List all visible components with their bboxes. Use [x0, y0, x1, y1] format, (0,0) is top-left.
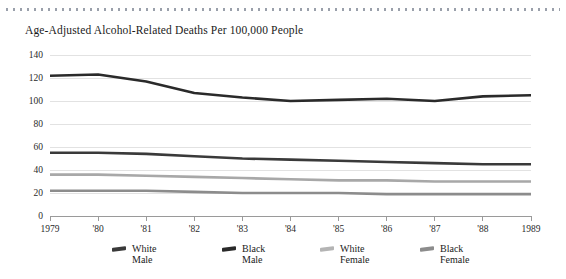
legend-label-line2: Male: [242, 254, 265, 265]
legend-label-line1: White: [132, 243, 156, 254]
legend-swatch-icon: [420, 246, 434, 252]
line-chart-svg: 020406080100120140 1979'80'81'82'83'84'8…: [0, 0, 566, 279]
legend-label-line1: Black: [440, 243, 469, 254]
y-axis-tick-label: 140: [29, 50, 44, 60]
legend-item: WhiteMale: [112, 243, 156, 265]
x-axis-tick-label: '82: [189, 224, 200, 234]
legend-swatch-icon: [222, 246, 236, 252]
legend-swatch-icon: [112, 246, 126, 252]
legend-label-line2: Female: [340, 254, 369, 265]
x-axis-tick-label: '81: [141, 224, 152, 234]
y-axis-tick-label: 100: [29, 96, 44, 106]
y-axis-tick-label: 40: [34, 165, 44, 175]
legend-item: WhiteFemale: [320, 243, 369, 265]
y-axis-tick-label: 20: [34, 188, 44, 198]
chart-legend: WhiteMaleBlackMaleWhiteFemaleBlackFemale: [0, 243, 566, 279]
legend-label-line2: Male: [132, 254, 156, 265]
x-axis-tick-label: '87: [429, 224, 440, 234]
legend-label: BlackFemale: [440, 243, 469, 265]
legend-label-line2: Female: [440, 254, 469, 265]
series-line-black-female: [50, 191, 531, 194]
legend-label-line1: White: [340, 243, 369, 254]
legend-item: BlackFemale: [420, 243, 469, 265]
x-axis-labels-group: 1979'80'81'82'83'84'85'86'87'881989: [41, 224, 541, 234]
series-line-black-male: [50, 75, 531, 101]
x-axis-tick-label: 1989: [522, 224, 541, 234]
y-axis-labels-group: 020406080100120140: [29, 50, 44, 221]
chart-plot-area: 020406080100120140 1979'80'81'82'83'84'8…: [0, 0, 566, 279]
legend-label: WhiteMale: [132, 243, 156, 265]
legend-label: BlackMale: [242, 243, 265, 265]
series-line-white-female: [50, 175, 531, 182]
x-axis-tick-label: '80: [92, 224, 103, 234]
legend-label-line1: Black: [242, 243, 265, 254]
x-axis-tick-label: '88: [477, 224, 488, 234]
x-axis-tick-label: 1979: [41, 224, 60, 234]
y-axis-tick-label: 120: [29, 73, 44, 83]
legend-label: WhiteFemale: [340, 243, 369, 265]
x-axis-tick-label: '86: [381, 224, 392, 234]
x-axis-tick-label: '85: [333, 224, 344, 234]
series-line-white-male: [50, 153, 531, 165]
x-axis-tick-label: '84: [285, 224, 296, 234]
y-axis-tick-label: 80: [34, 119, 44, 129]
legend-item: BlackMale: [222, 243, 265, 265]
y-axis-tick-label: 0: [38, 211, 43, 221]
x-axis-group: [50, 216, 531, 221]
legend-swatch-icon: [320, 246, 334, 252]
series-lines-group: [50, 75, 531, 195]
x-axis-tick-label: '83: [237, 224, 248, 234]
y-axis-tick-label: 60: [34, 142, 44, 152]
gridlines-group: [50, 55, 531, 193]
